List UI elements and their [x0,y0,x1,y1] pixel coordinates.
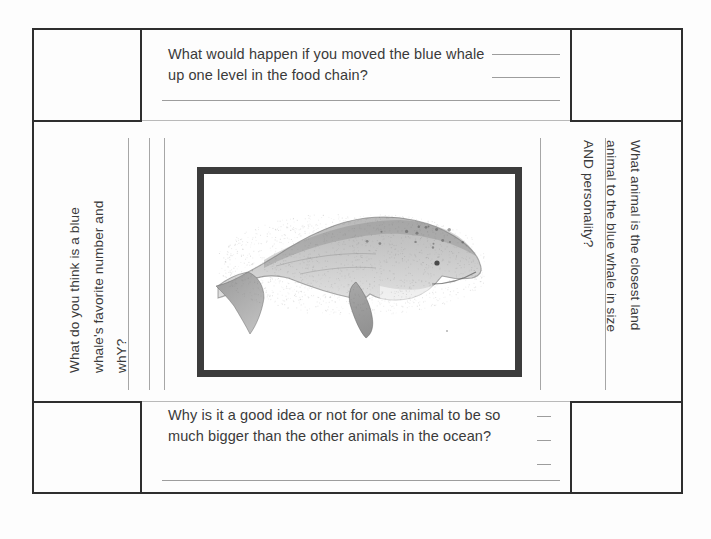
top-right-cell-bottom-edge [570,120,683,122]
top-row-separator [142,120,570,121]
blue-whale-drawing [204,174,515,370]
answer-line-top-2[interactable] [492,77,560,78]
question-left-text: What do you think is a blue whale's favo… [63,123,134,373]
answer-line-right-1[interactable] [540,138,541,390]
question-top-text: What would happen if you moved the blue … [168,44,518,86]
answer-line-left-1[interactable] [128,138,129,390]
top-left-cell-right-edge [140,28,142,121]
worksheet-table: What would happen if you moved the blue … [32,28,683,494]
answer-line-bottom-3[interactable] [537,464,551,465]
blue-whale-illustration: Grayscale pencil illustration of a blue … [197,167,522,377]
answer-line-right-2[interactable] [605,138,606,390]
bottom-right-cell [572,403,680,491]
answer-line-top-1[interactable] [492,54,560,55]
bottom-left-cell-right-edge [140,401,142,494]
answer-line-bottom-1[interactable] [537,416,551,417]
scanned-page: What would happen if you moved the blue … [0,0,711,539]
top-left-cell [34,30,139,119]
question-right-text: What animal is the closest land animal t… [577,140,648,390]
question-bottom-text: Why is it a good idea or not for one ani… [168,405,528,447]
table-border-bottom [32,492,683,494]
answer-line-bottom-2[interactable] [537,440,551,441]
answer-line-top-3[interactable] [162,100,560,101]
answer-line-bottom-4[interactable] [162,480,560,481]
bottom-row-separator [142,401,570,402]
table-border-right [681,28,683,494]
top-left-cell-bottom-edge [32,120,142,122]
answer-line-left-2[interactable] [149,138,150,390]
bottom-left-cell [34,403,139,491]
top-right-cell [572,30,680,119]
answer-line-left-3[interactable] [164,138,165,390]
